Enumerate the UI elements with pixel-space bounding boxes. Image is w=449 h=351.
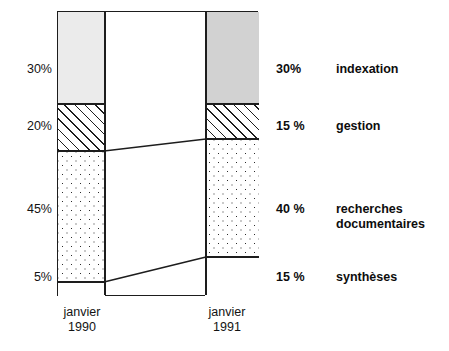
legend-percent-recherches: 40 % — [276, 202, 305, 216]
legend-percent-gestion: 15 % — [276, 119, 305, 133]
legend-label-recherches: recherches documentaires — [336, 202, 425, 231]
legend: 30% indexation 15 % gestion 40 % recherc… — [0, 0, 449, 351]
chart-canvas: 30% 20% 45% 5% janvier 1990 jan — [0, 0, 449, 351]
legend-label-syntheses: synthèses — [336, 270, 397, 285]
legend-label-gestion: gestion — [336, 119, 380, 134]
legend-percent-syntheses: 15 % — [276, 270, 305, 284]
legend-percent-indexation: 30% — [276, 62, 301, 76]
legend-label-indexation: indexation — [336, 62, 399, 77]
